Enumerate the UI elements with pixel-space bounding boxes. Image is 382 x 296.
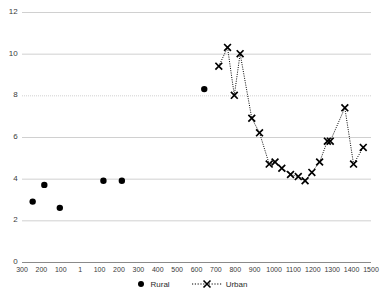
gridlines bbox=[22, 13, 371, 221]
rural-data-point bbox=[100, 178, 106, 184]
chart-legend: Rural Urban bbox=[0, 279, 382, 289]
chart-container: 121086420 300200100110020030040050060070… bbox=[0, 0, 382, 296]
urban-data-point bbox=[248, 115, 255, 122]
rural-data-point bbox=[57, 205, 63, 211]
rural-data-point bbox=[119, 178, 125, 184]
urban-data-point bbox=[278, 165, 285, 172]
plot-area bbox=[0, 0, 382, 296]
legend-label-urban: Urban bbox=[226, 280, 248, 289]
urban-data-point bbox=[308, 169, 315, 176]
urban-marker-icon bbox=[192, 279, 222, 289]
urban-data-point bbox=[272, 159, 279, 166]
urban-data-point bbox=[215, 63, 222, 70]
rural-marker-icon bbox=[135, 279, 147, 289]
urban-data-point bbox=[266, 161, 273, 168]
legend-entry-rural: Rural bbox=[135, 279, 170, 289]
urban-series-line bbox=[219, 47, 363, 180]
urban-data-point bbox=[302, 177, 309, 184]
urban-data-point bbox=[360, 144, 367, 151]
urban-line bbox=[219, 47, 363, 180]
urban-data-point bbox=[316, 159, 323, 166]
rural-data-point bbox=[201, 86, 207, 92]
legend-entry-urban: Urban bbox=[192, 279, 248, 289]
x-tick-label: 1500 bbox=[360, 266, 382, 274]
urban-data-point bbox=[256, 129, 263, 136]
legend-label-rural: Rural bbox=[151, 280, 170, 289]
rural-series-markers bbox=[29, 86, 207, 211]
rural-data-point bbox=[41, 182, 47, 188]
urban-data-point bbox=[287, 171, 294, 178]
rural-data-point bbox=[29, 198, 35, 204]
urban-data-point bbox=[341, 104, 348, 111]
